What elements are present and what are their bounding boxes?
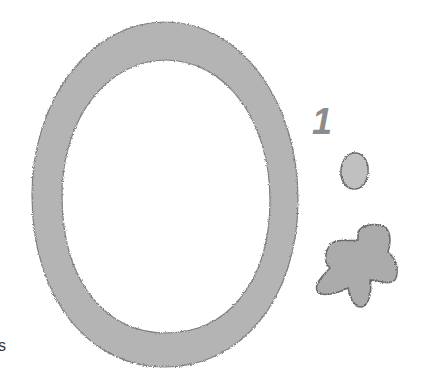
cropped-text-fragment: s — [0, 338, 6, 354]
drawing-canvas — [0, 0, 423, 385]
numeral-one: 1 — [312, 104, 332, 140]
oval-ring — [32, 22, 298, 367]
small-dot — [341, 153, 368, 189]
flower-blob — [316, 225, 397, 308]
